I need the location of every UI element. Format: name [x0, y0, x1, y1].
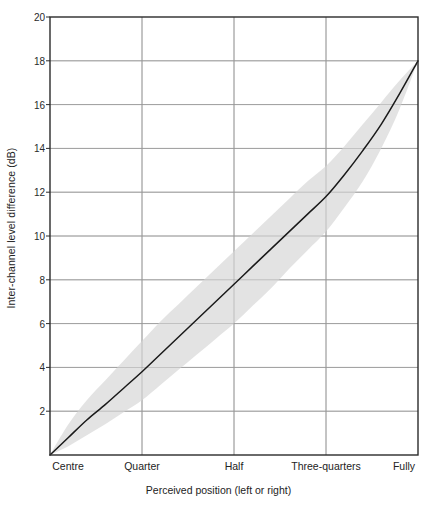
- y-axis-tick-label: 8: [22, 274, 45, 285]
- y-axis-tick-label: 6: [22, 318, 45, 329]
- x-axis-title: Perceived position (left or right): [0, 484, 437, 496]
- x-axis-tick-label: Three-quarters: [291, 460, 360, 472]
- y-axis-tick-label: 2: [22, 406, 45, 417]
- y-axis-tick-label: 16: [22, 99, 45, 110]
- y-axis-tick-label: 18: [22, 55, 45, 66]
- x-axis-title-text: Perceived position (left or right): [146, 484, 291, 496]
- y-axis-title: Inter-channel level difference (dB): [0, 0, 22, 455]
- x-axis-tick-label: Centre: [52, 460, 84, 472]
- y-axis-tick-label: 4: [22, 362, 45, 373]
- x-axis-tick-label: Quarter: [124, 460, 160, 472]
- y-axis-tick-label: 14: [22, 143, 45, 154]
- plot-area: [0, 0, 437, 510]
- y-axis-title-text: Inter-channel level difference (dB): [5, 147, 17, 308]
- y-axis-tick-label: 10: [22, 231, 45, 242]
- y-axis-tick-label: 20: [22, 12, 45, 23]
- y-axis-tick-labels: 2468101214161820: [22, 0, 45, 510]
- y-axis-tick-label: 12: [22, 187, 45, 198]
- x-axis-tick-label: Half: [225, 460, 244, 472]
- chart-figure: Inter-channel level difference (dB) 2468…: [0, 0, 437, 510]
- x-axis-tick-label: Fully: [393, 460, 415, 472]
